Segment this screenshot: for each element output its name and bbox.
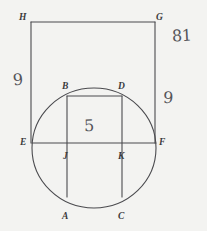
inscribed-circle <box>32 88 156 208</box>
vertex-label-F: F <box>159 138 165 148</box>
measurement-center: 5 <box>84 118 95 134</box>
vertex-label-D: D <box>118 82 125 92</box>
worksheet-page: H G E F B D J K A C 81 9 9 5 <box>0 0 207 231</box>
measurement-top-right: 81 <box>172 28 192 45</box>
vertex-label-E: E <box>20 138 26 148</box>
vertex-label-G: G <box>156 13 163 23</box>
vertex-label-A: A <box>62 212 68 222</box>
vertex-label-J: J <box>63 152 68 162</box>
vertex-label-K: K <box>118 152 124 162</box>
measurement-left-side: 9 <box>12 72 24 89</box>
vertex-label-B: B <box>62 82 68 92</box>
measurement-right-side: 9 <box>162 90 173 107</box>
vertex-label-H: H <box>19 13 26 23</box>
vertex-label-C: C <box>118 212 124 222</box>
